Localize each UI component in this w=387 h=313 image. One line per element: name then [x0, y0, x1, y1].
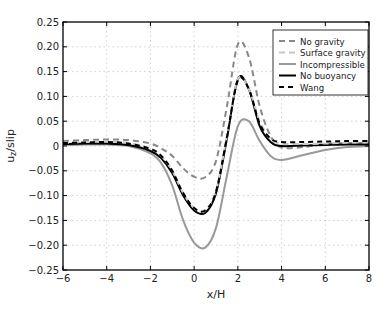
x-axis-label: x/H [207, 288, 226, 301]
y-axis-label: uz/slip [4, 129, 18, 163]
y-tick-label: −0.10 [28, 190, 59, 201]
x-tick-label: −2 [143, 273, 158, 284]
line-chart: −6−4−2024680.250.200.150.100.050−0.05−0.… [0, 0, 387, 313]
legend-item-label: Incompressible [300, 60, 365, 70]
legend: No gravitySurface gravityIncompressibleN… [273, 30, 368, 95]
y-tick-label: 0.15 [37, 66, 59, 77]
legend-item-label: No gravity [300, 37, 345, 47]
y-tick-label: 0.05 [37, 116, 59, 127]
legend-item-label: No buoyancy [300, 71, 356, 81]
x-tick-label: 4 [278, 273, 284, 284]
x-tick-label: 2 [235, 273, 241, 284]
x-tick-label: 0 [191, 273, 197, 284]
y-tick-label: −0.05 [28, 165, 59, 176]
y-tick-label: 0.10 [37, 91, 59, 102]
x-tick-label: 6 [322, 273, 328, 284]
x-tick-label: −4 [99, 273, 114, 284]
x-tick-label: 8 [366, 273, 372, 284]
legend-item-label: Wang [300, 83, 324, 93]
y-tick-label: −0.20 [28, 240, 59, 251]
y-tick-label: 0.20 [37, 41, 59, 52]
legend-item-label: Surface gravity [300, 48, 366, 58]
y-tick-label: −0.15 [28, 215, 59, 226]
y-tick-label: −0.25 [28, 265, 59, 276]
y-tick-label: 0.25 [37, 17, 59, 28]
y-tick-label: 0 [53, 141, 59, 152]
